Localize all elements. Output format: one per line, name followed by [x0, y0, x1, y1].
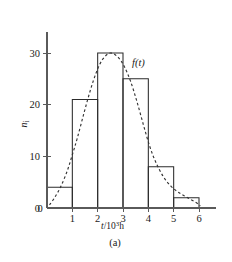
- x-axis-title-base: 10: [106, 221, 116, 231]
- x-axis-tick-label: 5: [171, 213, 176, 224]
- x-axis-tick-label: 1: [70, 213, 75, 224]
- x-axis-title-unit: h: [119, 221, 124, 231]
- histogram-bar: [148, 167, 173, 208]
- x-axis-tick-label: 0: [37, 203, 42, 214]
- y-axis-tick-label: 20: [30, 99, 41, 110]
- curve-label-f-of-t: f(t): [132, 57, 145, 69]
- histogram-bar: [98, 53, 123, 208]
- histogram-bars: [47, 53, 199, 208]
- svg-text:ni: ni: [18, 121, 31, 128]
- histogram-bar: [47, 187, 72, 208]
- y-axis-tick-label: 10: [30, 151, 41, 162]
- histogram-figure: 0102030 0123456 ni t/103h f(t) (a): [0, 0, 232, 262]
- x-axis-tick-label: 6: [196, 213, 201, 224]
- histogram-bar: [123, 79, 148, 208]
- x-axis-title: t/103h: [101, 220, 124, 232]
- figure-caption: (a): [109, 237, 121, 249]
- y-axis-tick-label: 30: [30, 48, 41, 59]
- y-axis-title: ni: [18, 121, 31, 128]
- histogram-bar: [174, 198, 199, 208]
- y-axis-title-subscript: i: [23, 121, 31, 123]
- x-axis-ticks: [72, 208, 199, 212]
- histogram-bar: [72, 100, 97, 209]
- plot-canvas: 0102030 0123456 ni t/103h f(t) (a): [0, 0, 232, 262]
- x-axis-tick-label: 2: [95, 213, 100, 224]
- y-axis-tick-labels: 0102030: [30, 48, 41, 214]
- x-axis-tick-label: 4: [146, 213, 152, 224]
